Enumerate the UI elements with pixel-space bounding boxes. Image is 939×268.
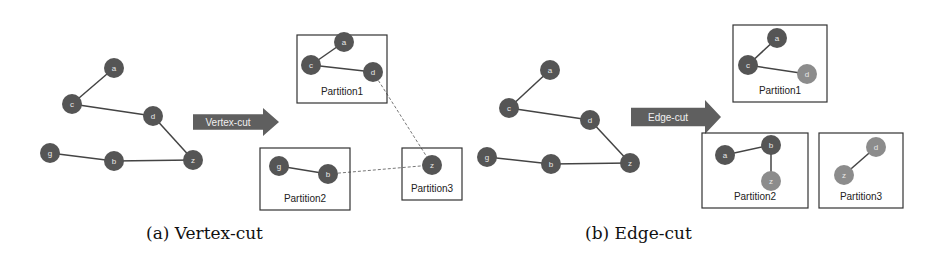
edge-cut-original-node-g: g <box>477 147 497 167</box>
partition-label: Partition2 <box>734 191 777 202</box>
partition-label: Partition3 <box>840 191 883 202</box>
partition-label: Partition1 <box>321 86 364 97</box>
svg-text:g: g <box>48 149 52 158</box>
vertex-cut-p2-node-b: b <box>318 164 338 184</box>
svg-text:d: d <box>151 112 155 121</box>
edge-cut-p2-node-z: z <box>761 171 781 191</box>
edge-cut-partition-2: abzPartition2 <box>702 133 808 208</box>
vertex-cut-arrow: Vertex-cut <box>193 108 279 136</box>
edge-cut-p1-node-d: d <box>797 64 817 84</box>
partition-label: Partition1 <box>759 85 802 96</box>
svg-text:g: g <box>277 162 281 171</box>
edge-cut-original-edge-c-d <box>509 108 590 120</box>
svg-text:b: b <box>549 160 554 169</box>
panel-vertex-cut: acdgbzVertex-cutacdPartition1gbPartition… <box>40 32 462 210</box>
vertex-cut-original-node-c: c <box>62 94 82 114</box>
panel-edge-cut: acdgbzEdge-cutacdPartition1abzPartition2… <box>477 25 903 208</box>
edge-cut-original-node-z: z <box>620 153 640 173</box>
vertex-cut-dashed-link-1 <box>328 165 432 174</box>
vertex-cut-p1-node-a: a <box>334 32 354 52</box>
edge-cut-p2-node-a: a <box>715 145 735 165</box>
vertex-cut-original-graph: acdgbz <box>40 58 203 171</box>
svg-text:g: g <box>485 153 489 162</box>
vertex-cut-partition-3: zPartition3 <box>402 148 462 200</box>
vertex-cut-p3-node-z: z <box>422 155 442 175</box>
partition-label: Partition3 <box>411 183 454 194</box>
edge-cut-p1-node-c: c <box>738 55 758 75</box>
edge-cut-original-graph: acdgbz <box>477 60 640 174</box>
edge-cut-p3-node-d: d <box>866 137 886 157</box>
svg-text:z: z <box>430 161 434 170</box>
caption-edge-cut: (b) Edge-cut <box>585 223 692 243</box>
edge-cut-original-node-c: c <box>499 98 519 118</box>
svg-text:a: a <box>723 151 728 160</box>
vertex-cut-p1-node-c: c <box>301 55 321 75</box>
svg-text:d: d <box>874 143 878 152</box>
svg-text:a: a <box>775 34 780 43</box>
caption-vertex-cut: (a) Vertex-cut <box>146 223 263 243</box>
edge-cut-arrow-label: Edge-cut <box>648 112 688 123</box>
edge-cut-arrow: Edge-cut <box>631 100 721 134</box>
vertex-cut-original-node-b: b <box>104 151 124 171</box>
svg-text:a: a <box>548 66 553 75</box>
svg-text:z: z <box>842 171 846 180</box>
edge-cut-partition-1: acdPartition1 <box>733 25 827 102</box>
edge-cut-original-node-d: d <box>580 110 600 130</box>
vertex-cut-partition-1: acdPartition1 <box>297 32 387 103</box>
vertex-cut-original-edge-c-d <box>72 104 153 116</box>
svg-text:d: d <box>588 116 592 125</box>
svg-text:c: c <box>507 104 511 113</box>
vertex-cut-original-node-d: d <box>143 106 163 126</box>
svg-text:b: b <box>112 157 117 166</box>
svg-text:b: b <box>326 170 331 179</box>
partition-label: Partition2 <box>284 193 327 204</box>
graph-partition-diagram: acdgbzVertex-cutacdPartition1gbPartition… <box>0 0 939 268</box>
vertex-cut-arrow-label: Vertex-cut <box>205 117 250 128</box>
svg-text:a: a <box>342 38 347 47</box>
svg-text:c: c <box>746 61 750 70</box>
svg-text:b: b <box>769 141 774 150</box>
edge-cut-original-node-b: b <box>541 154 561 174</box>
svg-text:d: d <box>371 68 375 77</box>
vertex-cut-original-node-g: g <box>40 143 60 163</box>
vertex-cut-original-edge-b-z <box>114 160 193 161</box>
svg-text:c: c <box>309 61 313 70</box>
edge-cut-p1-node-a: a <box>767 28 787 48</box>
vertex-cut-partition-2: gbPartition2 <box>260 148 350 210</box>
svg-text:c: c <box>70 100 74 109</box>
vertex-cut-original-node-z: z <box>183 150 203 170</box>
edge-cut-p3-node-z: z <box>834 165 854 185</box>
vertex-cut-p1-node-d: d <box>363 62 383 82</box>
svg-text:z: z <box>191 156 195 165</box>
edge-cut-partition-3: dzPartition3 <box>819 133 903 208</box>
svg-text:z: z <box>769 177 773 186</box>
vertex-cut-p2-node-g: g <box>269 156 289 176</box>
svg-text:z: z <box>628 159 632 168</box>
edge-cut-original-edge-b-z <box>551 163 630 164</box>
edge-cut-original-node-a: a <box>540 60 560 80</box>
vertex-cut-original-node-a: a <box>104 58 124 78</box>
svg-text:a: a <box>112 64 117 73</box>
svg-text:d: d <box>805 70 809 79</box>
edge-cut-p2-node-b: b <box>761 135 781 155</box>
